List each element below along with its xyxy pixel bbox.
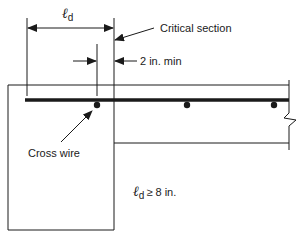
min-clearance-label: 2 in. min [140,55,182,67]
critical-section-label: Critical section [160,22,232,34]
development-length-diagram: ℓd Critical section 2 in. min Cross wire… [0,0,302,234]
cross-wire-dot [184,102,190,108]
cross-wire-label: Cross wire [28,147,80,159]
cross-wire-dot [94,102,100,108]
cross-wire-leader [61,111,92,142]
break-line [284,80,296,150]
cross-wire-dot [271,102,277,108]
critical-section-leader [115,28,154,40]
ld-label: ℓd [62,6,73,23]
ld-condition-label: ℓd≥ 8 in. [133,184,176,201]
